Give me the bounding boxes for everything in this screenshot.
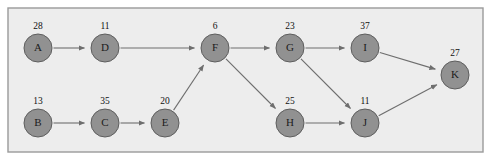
node-label-K: K: [451, 68, 459, 80]
node-weight-J: 11: [360, 96, 369, 106]
node-weight-C: 35: [100, 96, 110, 106]
node-label-A: A: [34, 41, 42, 53]
node-label-F: F: [212, 41, 218, 53]
node-label-I: I: [363, 41, 367, 53]
node-label-D: D: [101, 41, 109, 53]
node-weight-D: 11: [100, 21, 109, 31]
node-weight-B: 13: [33, 96, 43, 106]
node-weight-G: 23: [285, 21, 295, 31]
node-label-C: C: [101, 116, 108, 128]
node-label-E: E: [162, 116, 169, 128]
node-weight-I: 37: [360, 21, 370, 31]
graph-canvas: 28A11D6F23G37I27K13B35C20E25H11J: [0, 0, 491, 160]
node-label-J: J: [363, 116, 368, 128]
node-label-G: G: [286, 41, 294, 53]
node-label-B: B: [34, 116, 41, 128]
node-label-H: H: [286, 116, 294, 128]
node-weight-K: 27: [450, 48, 460, 58]
node-weight-H: 25: [285, 96, 295, 106]
node-weight-E: 20: [160, 96, 170, 106]
node-weight-A: 28: [33, 21, 43, 31]
diagram-panel: [8, 8, 483, 152]
graph-figure: 28A11D6F23G37I27K13B35C20E25H11J: [0, 0, 491, 160]
node-weight-F: 6: [213, 21, 218, 31]
